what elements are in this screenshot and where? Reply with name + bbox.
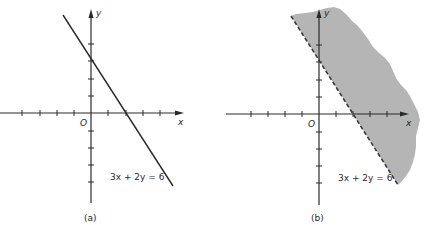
figure: x y O 3x + 2y = 6 (a) (0, 0, 425, 225)
panel-a: x y O 3x + 2y = 6 (a) (0, 8, 184, 223)
equation-label-a: 3x + 2y = 6 (110, 172, 165, 182)
x-axis-arrow-icon (175, 111, 184, 116)
origin-label-b: O (308, 119, 315, 129)
equation-label-b: 3x + 2y = 6 (338, 173, 393, 183)
shaded-region (291, 7, 420, 185)
x-axis-label-a: x (177, 117, 184, 127)
origin-label-a: O (80, 118, 87, 128)
y-axis-label-a: y (95, 8, 102, 18)
y-axis-arrow-icon (89, 9, 94, 18)
x-axis-label-b: x (405, 118, 412, 128)
equation-line-solid (63, 15, 173, 186)
caption-b: (b) (311, 213, 324, 223)
caption-a: (a) (84, 213, 97, 223)
panel-b: x y O 3x + 2y = 6 (b) (226, 7, 420, 223)
y-axis-label-b: y (323, 8, 330, 18)
